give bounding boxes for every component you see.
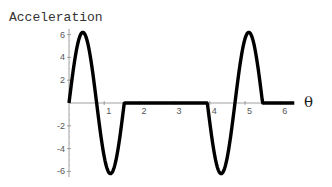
chart-title: Acceleration: [9, 10, 103, 25]
y-tick-label: 2: [60, 75, 65, 85]
y-tick-label: -4: [57, 144, 65, 154]
y-tick-label: -6: [57, 166, 65, 176]
x-tick-label: 2: [141, 106, 146, 116]
x-tick-label: 4: [212, 106, 217, 116]
acceleration-chart: Acceleration 123456642-2-4-6 θ: [0, 0, 332, 187]
y-tick-label: -2: [57, 121, 65, 131]
x-tick-label: 5: [247, 106, 252, 116]
x-tick-label: 1: [106, 106, 111, 116]
x-tick-label: 3: [177, 106, 182, 116]
x-axis-label: θ: [304, 93, 313, 111]
x-tick-label: 6: [282, 106, 287, 116]
y-tick-label: 4: [60, 52, 65, 62]
y-tick-label: 6: [60, 30, 65, 40]
